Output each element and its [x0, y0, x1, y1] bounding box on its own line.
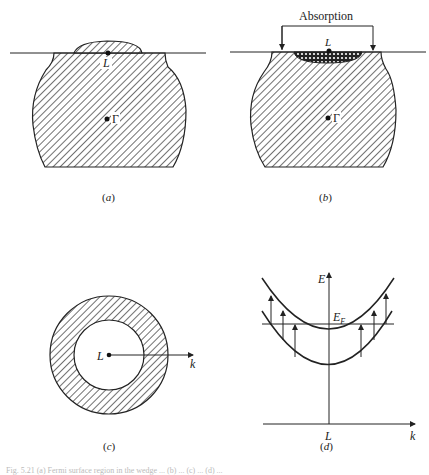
figure-caption: Fig. 5.21 (a) Fermi surface region in th… — [6, 466, 223, 475]
panel-label-d: (d) — [320, 440, 333, 453]
panel-d: E EF L k (d) — [262, 272, 416, 453]
point-gamma-a: Γ — [112, 112, 119, 126]
panel-label-a: (a) — [102, 191, 115, 204]
panel-label-b: (b) — [319, 191, 332, 204]
lower-band — [262, 311, 392, 365]
point-L-c: L — [96, 349, 104, 363]
point-gamma-b: Γ — [333, 111, 340, 125]
point-L-b: L — [324, 36, 331, 48]
panel-label-c: (c) — [103, 440, 116, 453]
fermi-level-label: EF — [332, 310, 345, 326]
absorption-label: Absorption — [299, 9, 353, 23]
point-L-a: L — [102, 56, 110, 70]
fermi-body-b — [251, 52, 396, 167]
E-axis-label: E — [317, 272, 326, 286]
k-label-d: k — [410, 429, 416, 443]
k-label-c: k — [190, 357, 196, 371]
figure-canvas: L Γ (a) Absorption L Γ (b) L k (c) — [0, 0, 429, 475]
panel-a: L Γ (a) — [10, 41, 206, 204]
fermi-body-a — [33, 53, 186, 167]
panel-b: Absorption L Γ (b) — [230, 9, 426, 204]
panel-c: L k (c) — [50, 296, 196, 453]
